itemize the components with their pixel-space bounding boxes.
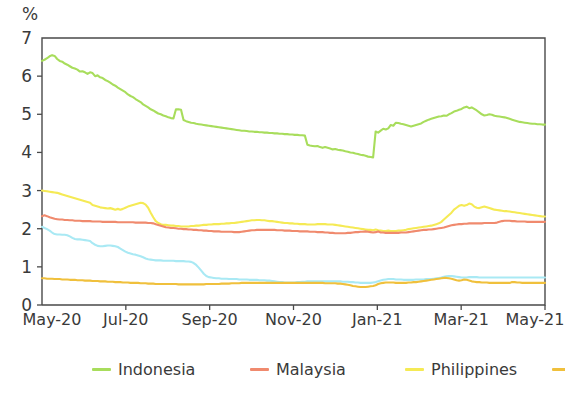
series-group-philippines	[42, 191, 545, 231]
legend-label: Philippines	[431, 360, 517, 379]
legend-item-malaysia[interactable]: Malaysia	[250, 360, 405, 379]
plot-frame	[42, 38, 545, 305]
chart-legend: IndonesiaMalaysiaPhilippinesThailandViet…	[92, 358, 552, 380]
series-line-philippines	[42, 191, 545, 231]
series-line-thailand	[42, 278, 545, 287]
legend-swatch-icon	[552, 368, 565, 371]
legend-swatch-icon	[405, 368, 424, 371]
series-group-thailand	[42, 278, 545, 287]
legend-item-thailand[interactable]: Thailand	[552, 360, 565, 379]
chart-container: % 01234567 May-20Jul-20Sep-20Nov-20Jan-2…	[0, 0, 565, 400]
legend-label: Malaysia	[276, 360, 346, 379]
line-chart-plot	[0, 0, 565, 400]
legend-item-indonesia[interactable]: Indonesia	[92, 360, 250, 379]
legend-swatch-icon	[92, 368, 111, 371]
legend-label: Indonesia	[118, 360, 195, 379]
series-line-viet-nam	[42, 227, 545, 283]
legend-item-philippines[interactable]: Philippines	[405, 360, 552, 379]
series-line-indonesia	[42, 55, 545, 157]
series-group-viet-nam	[42, 227, 545, 283]
legend-swatch-icon	[250, 368, 269, 371]
series-group-indonesia	[42, 55, 545, 157]
